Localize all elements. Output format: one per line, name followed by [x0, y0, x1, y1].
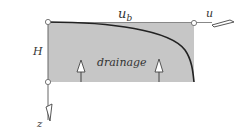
z-axis-arrowhead: [46, 104, 52, 121]
drainage-label: drainage: [97, 56, 147, 69]
node-top-left: [45, 19, 50, 24]
height-label: H: [32, 45, 43, 58]
ub-label: ub: [118, 6, 132, 23]
u-axis-label: u: [206, 7, 213, 20]
u-axis-arrowhead: [212, 20, 234, 27]
node-bottom-left: [45, 79, 50, 84]
node-top-right: [191, 20, 196, 25]
z-axis-label: z: [36, 118, 43, 129]
drainage-diagram: ub u H drainage z: [0, 0, 252, 134]
flow-domain: [48, 22, 194, 82]
